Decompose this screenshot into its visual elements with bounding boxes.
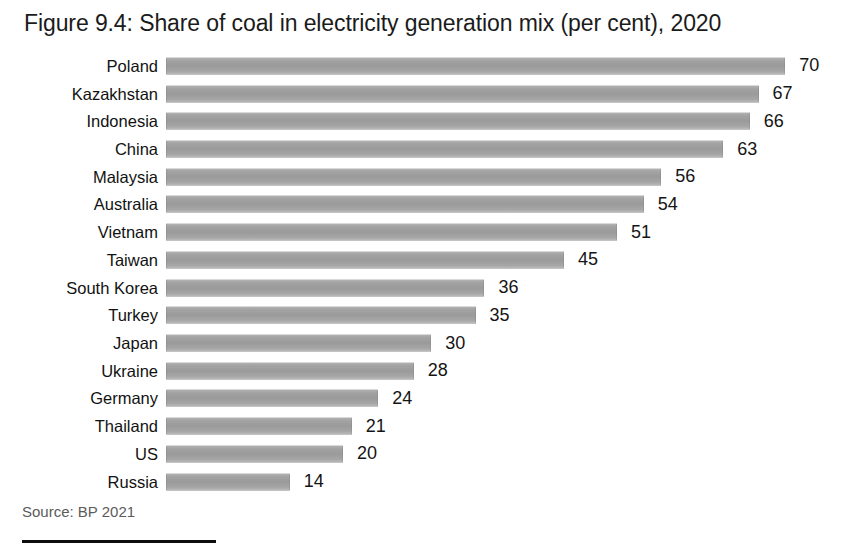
category-label: Turkey [0,307,158,324]
bar [166,362,414,379]
bar-row: Russia14 [0,468,858,496]
bar-value-label: 30 [445,334,465,353]
bar-track: 35 [166,307,858,324]
bar-value-label: 28 [428,361,448,380]
category-label: Germany [0,390,158,407]
bar [166,473,290,490]
bar [166,85,759,102]
category-label: Taiwan [0,251,158,268]
bar-value-label: 51 [631,223,651,242]
bar-value-label: 63 [737,140,757,159]
bar-row: Poland70 [0,52,858,80]
bar [166,141,723,158]
bar-row: Vietnam51 [0,218,858,246]
category-label: Australia [0,196,158,213]
category-label: China [0,141,158,158]
bar-value-label: 35 [490,306,510,325]
category-label: Vietnam [0,224,158,241]
bar [166,113,750,130]
bar-row: Indonesia66 [0,107,858,135]
bar-row: South Korea36 [0,274,858,302]
bar-row: Ukraine28 [0,357,858,385]
bar [166,335,431,352]
bar-value-label: 45 [578,250,598,269]
bar-row: Kazakhstan67 [0,80,858,108]
bar-track: 70 [166,57,858,74]
bar-value-label: 66 [764,112,784,131]
bar-track: 67 [166,85,858,102]
figure-container: Figure 9.4: Share of coal in electricity… [0,0,858,552]
bar-track: 21 [166,418,858,435]
bar-track: 36 [166,279,858,296]
category-label: Japan [0,335,158,352]
bar [166,196,644,213]
bar-track: 28 [166,362,858,379]
page-title: Figure 9.4: Share of coal in electricity… [24,9,854,38]
bar-track: 56 [166,168,858,185]
bar [166,251,564,268]
bar [166,307,476,324]
chart-plot-area: Poland70Kazakhstan67Indonesia66China63Ma… [0,48,858,500]
category-label: Malaysia [0,168,158,185]
category-label: US [0,445,158,462]
bar-value-label: 20 [357,444,377,463]
category-label: Poland [0,57,158,74]
footer-rule [22,540,216,543]
bar-value-label: 14 [304,472,324,491]
category-label: South Korea [0,279,158,296]
bar-row: Germany24 [0,385,858,413]
bar-value-label: 54 [658,195,678,214]
category-label: Thailand [0,418,158,435]
bar [166,390,378,407]
bar-value-label: 24 [392,389,412,408]
bar-track: 24 [166,390,858,407]
bar-row: Turkey35 [0,301,858,329]
bar-track: 30 [166,335,858,352]
bar-track: 54 [166,196,858,213]
bar-row: Malaysia56 [0,163,858,191]
bar-row: Thailand21 [0,412,858,440]
bar-track: 63 [166,141,858,158]
bar-row: Japan30 [0,329,858,357]
bar-value-label: 21 [366,417,386,436]
bar [166,279,484,296]
bar-track: 14 [166,473,858,490]
bar-row: Taiwan45 [0,246,858,274]
bar [166,445,343,462]
bar [166,57,785,74]
bar [166,224,617,241]
bar-value-label: 67 [773,84,793,103]
category-label: Ukraine [0,362,158,379]
bar-value-label: 56 [675,167,695,186]
bar-row: China63 [0,135,858,163]
bar-row: US20 [0,440,858,468]
bar-track: 45 [166,251,858,268]
source-note: Source: BP 2021 [22,502,135,521]
bar-value-label: 70 [799,56,819,75]
bar-track: 66 [166,113,858,130]
bar [166,168,661,185]
bar [166,418,352,435]
bar-value-label: 36 [498,278,518,297]
category-label: Indonesia [0,113,158,130]
bar-row: Australia54 [0,191,858,219]
bar-track: 20 [166,445,858,462]
bar-track: 51 [166,224,858,241]
category-label: Russia [0,473,158,490]
category-label: Kazakhstan [0,85,158,102]
